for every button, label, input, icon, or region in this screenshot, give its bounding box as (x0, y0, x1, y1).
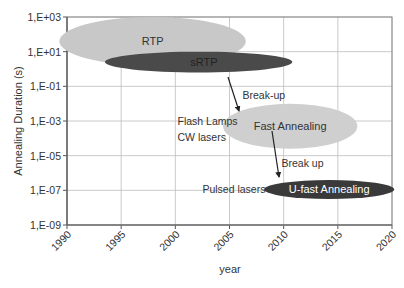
region-u-fast-annealing: U-fast Annealing (264, 180, 394, 199)
region-label: U-fast Annealing (289, 183, 370, 195)
y-tick-labels: 1,E+031,E+011,E-011,E-031,E-051,E-071,E-… (27, 11, 61, 231)
x-axis-title: year (219, 263, 241, 275)
y-tick-label: 1,E-05 (30, 150, 61, 162)
annotation-flash-lamps: Flash Lamps (178, 115, 238, 127)
x-tick-label: 2005 (211, 228, 236, 253)
annotation-pulsed-lasers: Pulsed lasers (202, 183, 265, 195)
region-label: RTP (142, 35, 164, 47)
x-tick-label: 1990 (48, 228, 73, 253)
x-tick-label: 2010 (265, 228, 290, 253)
y-tick-label: 1,E-03 (30, 115, 61, 127)
x-tick-labels: 1990199520002005201020152020 (48, 228, 398, 253)
annotation-cw-lasers: CW lasers (178, 131, 226, 143)
y-tick-label: 1,E-01 (30, 80, 61, 92)
regions: RTPsRTPFast AnnealingU-fast Annealing (59, 17, 394, 199)
x-tick-label: 2015 (319, 228, 344, 253)
annealing-chart: RTPsRTPFast AnnealingU-fast Annealing Br… (0, 0, 404, 288)
region-fast-annealing: Fast Annealing (223, 104, 357, 149)
region-label: sRTP (190, 56, 217, 68)
region-srtp: sRTP (105, 52, 292, 73)
y-tick-label: 1,E+01 (27, 46, 61, 58)
y-axis-title: Annealing Duration (s) (12, 66, 24, 175)
x-tick-label: 2000 (157, 228, 182, 253)
y-tick-label: 1,E+03 (27, 11, 61, 23)
x-tick-label: 2020 (373, 228, 398, 253)
region-label: Fast Annealing (254, 120, 327, 132)
annotation-break-up: Break-up (243, 89, 286, 101)
y-tick-label: 1,E-07 (30, 184, 61, 196)
y-tick-label: 1,E-09 (30, 219, 61, 231)
x-tick-label: 1995 (103, 228, 128, 253)
annotation-break-up: Break up (282, 157, 324, 169)
